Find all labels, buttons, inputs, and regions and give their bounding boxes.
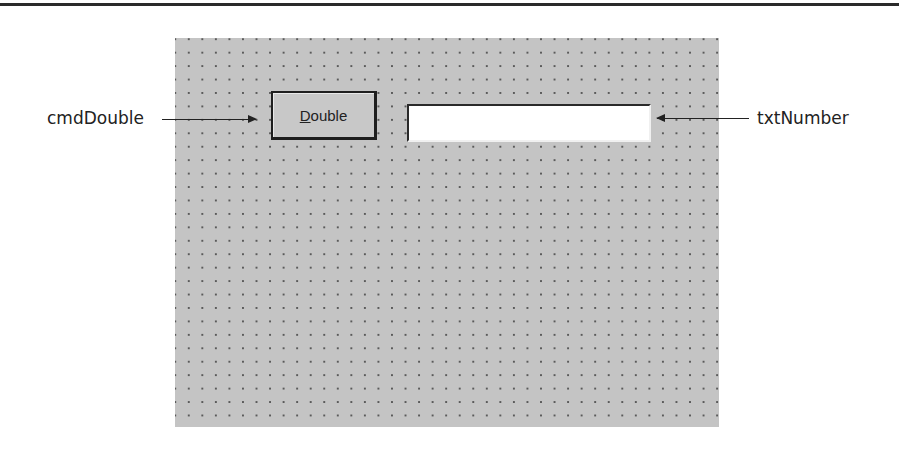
number-textbox[interactable] bbox=[407, 104, 651, 142]
callout-arrow-left-icon bbox=[657, 118, 749, 119]
button-accelerator-key: D bbox=[300, 107, 311, 124]
double-button[interactable]: Double bbox=[271, 91, 377, 140]
callout-arrow-right-icon bbox=[162, 119, 256, 120]
top-rule-divider bbox=[0, 3, 899, 6]
vb-form-design-surface bbox=[175, 38, 719, 427]
button-label: ouble bbox=[311, 107, 348, 124]
callout-label-txtnumber: txtNumber bbox=[757, 108, 849, 128]
callout-label-cmddouble: cmdDouble bbox=[47, 108, 144, 128]
